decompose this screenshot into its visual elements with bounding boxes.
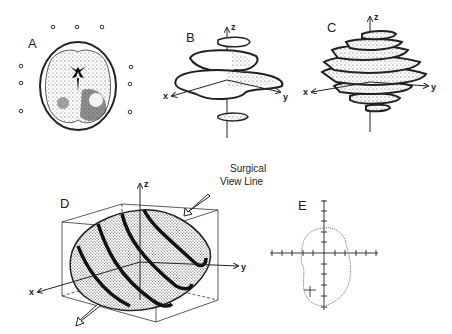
tumor-outline <box>301 228 350 306</box>
axis-label-x: x <box>29 287 34 297</box>
axis-label-z: z <box>231 22 236 32</box>
panel-label-b: B <box>186 30 195 45</box>
surgical-label-line1: Surgical <box>230 163 266 174</box>
axis-label-y: y <box>431 82 436 92</box>
surgical-label-line2: View Line <box>220 176 264 187</box>
panel-b: B z x y <box>163 22 288 138</box>
panel-d: D z x y Surgical View Line <box>29 163 266 326</box>
panel-e: E <box>270 198 378 310</box>
lesion-right <box>89 93 103 107</box>
panel-a: A <box>19 25 133 130</box>
panel-c: C z x y <box>303 12 436 132</box>
panel-label-e: E <box>298 198 307 213</box>
axis-label-y: y <box>283 92 288 102</box>
panel-label-d: D <box>60 196 69 211</box>
axis-label-y: y <box>241 262 246 272</box>
axis-label-x: x <box>303 87 308 97</box>
panel-label-a: A <box>28 36 37 51</box>
axis-label-z: z <box>144 179 149 189</box>
axis-label-x: x <box>163 91 168 101</box>
lesion-left <box>57 97 69 109</box>
figure-canvas: A B z x y C z <box>0 0 452 334</box>
panel-label-c: C <box>327 20 336 35</box>
axis-label-z: z <box>374 12 379 22</box>
